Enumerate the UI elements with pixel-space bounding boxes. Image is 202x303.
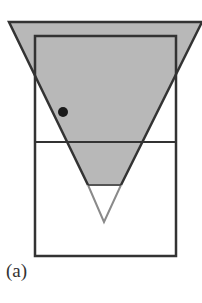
point-marker <box>58 107 68 117</box>
diagram-figure <box>0 0 202 303</box>
shaded-triangle-region <box>9 22 202 185</box>
triangle-tip-outline <box>88 185 121 222</box>
figure-label: (a) <box>6 260 27 282</box>
